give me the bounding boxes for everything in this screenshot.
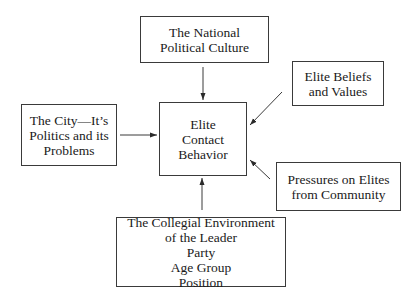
node-collegial-environment: The Collegial Environment of the Leader … [116, 217, 286, 287]
node-label-line: Politics and its [29, 128, 109, 143]
node-elite-beliefs-values: Elite Beliefs and Values [292, 61, 384, 106]
node-sub-items: PartyAge GroupPosition [171, 245, 231, 290]
node-label-line: Political Culture [160, 40, 249, 55]
node-label-line: Problems [43, 143, 94, 158]
arrow-pressures-to-center [250, 160, 270, 179]
node-label-line: Elite Beliefs [304, 69, 371, 84]
sub-item-position: Position [179, 275, 223, 290]
node-label-line: Contact [182, 132, 224, 147]
arrow-beliefs-to-center [250, 92, 282, 125]
node-city-politics-problems: The City—It’s Politics and its Problems [21, 104, 117, 166]
node-label-line: The City—It’s [30, 113, 108, 128]
node-label-line: The National [169, 25, 240, 40]
node-pressures-from-community: Pressures on Elites from Community [276, 162, 401, 211]
node-label-line: Elite [190, 117, 216, 132]
node-label-line: Pressures on Elites [288, 172, 390, 187]
sub-item-party: Party [187, 245, 216, 260]
node-national-political-culture: The National Political Culture [140, 16, 269, 63]
node-label-line: from Community [291, 187, 385, 202]
node-label-line: and Values [309, 84, 368, 99]
node-label-line: Behavior [178, 147, 228, 162]
node-label-line: The Collegial Environment [127, 215, 275, 230]
sub-item-age-group: Age Group [171, 260, 231, 275]
node-label-line: of the Leader [165, 230, 237, 245]
node-elite-contact-behavior: Elite Contact Behavior [159, 102, 247, 176]
